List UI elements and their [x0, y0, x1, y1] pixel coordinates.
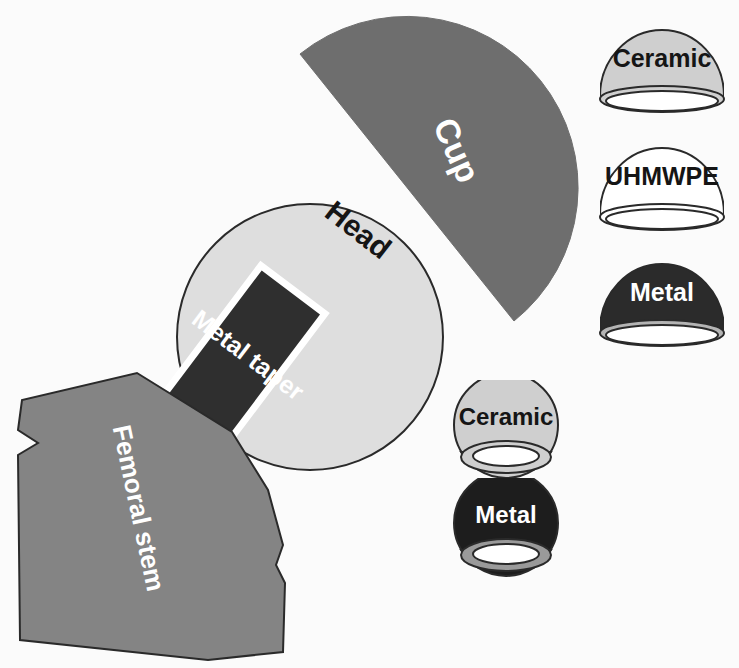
ball-option-metal-label: Metal	[475, 501, 536, 528]
cup-option-uhmwpe-rim-inner	[606, 209, 718, 229]
ball-option-ceramic-label: Ceramic	[459, 403, 554, 430]
diagram-canvas: Cup Head Metal taper Femoral stem Cerami…	[0, 0, 739, 668]
ball-option-ceramic: Ceramic	[454, 373, 558, 478]
cup-option-ceramic-rim-inner	[606, 91, 718, 111]
ball-option-ceramic-bore-inner	[473, 446, 539, 466]
cup-option-uhmwpe: UHMWPE	[600, 148, 724, 230]
cup-option-ceramic: Ceramic	[600, 30, 724, 112]
ball-option-metal: Metal	[454, 471, 558, 576]
cup-option-metal: Metal	[600, 264, 724, 346]
ball-option-metal-bore-inner	[473, 544, 539, 564]
cup-option-metal-label: Metal	[630, 278, 694, 306]
hip-prosthesis-diagram: Cup Head Metal taper Femoral stem Cerami…	[0, 0, 739, 668]
cup-option-uhmwpe-label: UHMWPE	[605, 162, 719, 190]
cup-option-ceramic-label: Ceramic	[613, 44, 712, 72]
cup-option-metal-rim-inner	[606, 325, 718, 345]
